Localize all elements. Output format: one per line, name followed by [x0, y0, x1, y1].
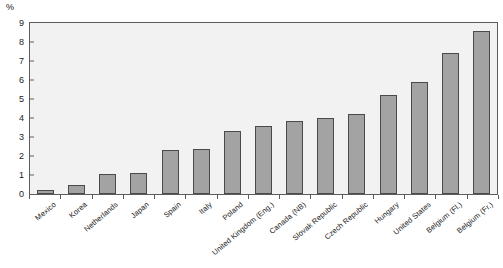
bar-slot	[341, 23, 372, 194]
x-axis-tick-mark	[185, 195, 186, 199]
x-axis-tick-mark	[279, 195, 280, 199]
bar-slot	[279, 23, 310, 194]
y-axis-tick-label: 3	[19, 132, 30, 142]
x-axis-tick-mark	[92, 195, 93, 199]
x-axis-tick-mark	[60, 195, 61, 199]
y-axis-tick-label: 9	[19, 18, 30, 28]
bar-slot	[217, 23, 248, 194]
x-axis-tick-mark	[154, 195, 155, 199]
bar-slot	[310, 23, 341, 194]
bar	[411, 82, 428, 194]
bar-slot	[61, 23, 92, 194]
bar-slot	[404, 23, 435, 194]
bar	[224, 131, 241, 194]
bar	[37, 190, 54, 194]
x-axis-tick-mark	[498, 195, 499, 199]
x-axis-tick-mark	[435, 195, 436, 199]
bar	[68, 185, 85, 194]
x-axis-tick-mark	[29, 195, 30, 199]
bar	[348, 114, 365, 194]
x-axis-tick-mark	[342, 195, 343, 199]
bar-slot	[373, 23, 404, 194]
x-axis-tick-mark	[217, 195, 218, 199]
bar	[286, 121, 303, 194]
y-axis-unit-label: %	[6, 2, 14, 12]
x-axis-category-label: Italy	[197, 200, 214, 216]
x-axis-category-label: Poland	[221, 200, 245, 222]
y-axis-tick-label: 1	[19, 170, 30, 180]
bar-slot	[435, 23, 466, 194]
bar-slot	[92, 23, 123, 194]
bar	[317, 118, 334, 194]
x-axis-category-label: Hungary	[373, 200, 401, 226]
x-axis-tick-mark	[123, 195, 124, 199]
bar	[193, 149, 210, 194]
bar-slot	[248, 23, 279, 194]
bar	[255, 126, 272, 194]
x-axis-category-label: United Kingdom (Eng.)	[211, 200, 277, 257]
plot-area: 0123456789	[29, 22, 498, 195]
bar	[162, 150, 179, 194]
bar-slot	[155, 23, 186, 194]
y-axis-tick-label: 2	[19, 151, 30, 161]
bar	[130, 173, 147, 194]
bar-slot	[186, 23, 217, 194]
x-axis-tick-mark	[373, 195, 374, 199]
bar-chart-figure: % 0123456789 MexicoKoreaNetherlandsJapan…	[0, 0, 503, 268]
x-axis-tick-mark	[404, 195, 405, 199]
x-axis-tick-mark	[310, 195, 311, 199]
bar	[99, 174, 116, 194]
bar-slot	[123, 23, 154, 194]
bar-series	[30, 23, 497, 194]
x-axis-category-label: Spain	[161, 200, 182, 220]
bar	[442, 53, 459, 194]
y-axis-tick-label: 8	[19, 37, 30, 47]
x-axis-tick-mark	[248, 195, 249, 199]
bar	[380, 95, 397, 194]
y-axis-tick-label: 6	[19, 75, 30, 85]
y-axis-tick-label: 5	[19, 94, 30, 104]
x-axis-category-label: Japan	[129, 200, 151, 220]
y-axis-tick-label: 4	[19, 113, 30, 123]
bar-slot	[466, 23, 497, 194]
x-axis-category-label: Mexico	[33, 200, 57, 223]
bar	[473, 31, 490, 194]
x-axis-category-label: Korea	[67, 200, 89, 220]
x-axis-tick-mark	[467, 195, 468, 199]
bar-slot	[30, 23, 61, 194]
x-axis-category-labels: MexicoKoreaNetherlandsJapanSpainItalyPol…	[29, 200, 498, 268]
y-axis-tick-label: 7	[19, 56, 30, 66]
